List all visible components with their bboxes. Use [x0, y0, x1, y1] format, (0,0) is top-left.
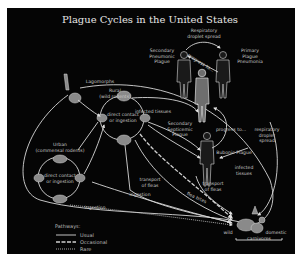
- svg-text:Urban(commensal rodents): Urban(commensal rodents): [36, 142, 85, 153]
- label-domestic: domestic: [265, 230, 286, 235]
- rural-urban-link: [78, 122, 98, 150]
- human-secondary-septicemic-icon: [195, 69, 209, 122]
- label-secondary-pneumonic-1: Secondary: [150, 48, 175, 53]
- human-secondary-pneumonic-icon: [177, 52, 191, 99]
- label-progress-to-mid: progress to...: [216, 127, 246, 132]
- label-urban-1: Urban: [53, 142, 67, 147]
- legend-title: Pathways:: [55, 223, 81, 230]
- label-secondary-septicemic-2: Septicemic: [167, 127, 193, 132]
- svg-text:Respiratorydroplet spread: Respiratorydroplet spread: [187, 28, 221, 39]
- label-respiratory-right-2: droplet: [259, 133, 276, 138]
- legend: Pathways: Usual Occasional Rare: [55, 223, 107, 252]
- urban-rodent-right-icon: [75, 174, 85, 182]
- urban-rodent-bottom-icon: [53, 195, 67, 203]
- label-secondary-pneumonic-3: Plague: [154, 59, 170, 64]
- label-transport-fleas-right-2: of fleas: [205, 187, 222, 192]
- svg-text:SecondarySepticemicPlague: SecondarySepticemicPlague: [167, 121, 193, 137]
- label-transport-fleas-left-1: transport: [139, 177, 160, 182]
- diagram-title: Plague Cycles in the United States: [62, 14, 238, 25]
- urban-to-rural-link: [84, 125, 104, 174]
- svg-text:transportof fleas: transportof fleas: [139, 177, 160, 188]
- label-transport-fleas-right-1: transport: [202, 181, 223, 186]
- label-ingestion-mid: ingestion: [129, 192, 150, 197]
- label-infected-tissues-right-1: infected: [235, 165, 254, 170]
- label-direct-contact-rural-2: or ingestion: [109, 118, 136, 123]
- label-rural-1: Rural: [109, 88, 121, 93]
- lagomorph-link: [78, 100, 100, 116]
- label-primary-pneumonia-3: Pneumonia: [237, 59, 263, 64]
- svg-text:transportof fleas: transportof fleas: [202, 181, 223, 192]
- label-secondary-pneumonic-2: Pneumonic: [149, 54, 175, 59]
- label-carnivores: carnivores: [247, 236, 271, 241]
- human-bubonic-plague-icon: [200, 132, 214, 186]
- legend-usual-label: Usual: [80, 232, 94, 238]
- svg-text:respiratorydropletspread: respiratorydropletspread: [254, 127, 279, 143]
- label-primary-pneumonia-2: Plague: [242, 54, 258, 59]
- svg-text:infectedtissues: infectedtissues: [235, 165, 254, 176]
- urban-rodent-top-icon: [53, 155, 67, 163]
- label-wild: wild: [223, 230, 232, 235]
- label-direct-contact-urban-2: or ingestion: [46, 179, 73, 184]
- svg-text:PrimaryPlaguePneumonia: PrimaryPlaguePneumonia: [237, 48, 263, 64]
- label-ingestion-bottom: ingestion: [84, 205, 105, 210]
- label-direct-contact-urban-1: direct contact: [44, 173, 76, 178]
- rural-rodent-bottom-icon: [117, 135, 131, 145]
- label-transport-fleas-left-2: of fleas: [142, 183, 159, 188]
- svg-text:direct contactor ingestion: direct contactor ingestion: [44, 173, 76, 184]
- human-primary-pneumonia-icon: [216, 52, 230, 99]
- svg-text:SecondaryPneumonicPlague: SecondaryPneumonicPlague: [149, 48, 175, 64]
- label-bubonic-plague: Bubonic Plague: [216, 150, 252, 155]
- label-primary-pneumonia-1: Primary: [241, 48, 259, 53]
- label-respiratory-top-1: Respiratory: [191, 28, 218, 33]
- urban-rodent-left-icon: [34, 174, 44, 182]
- svg-text:direct contactor ingestion: direct contactor ingestion: [107, 112, 139, 123]
- fan-line-3: [140, 134, 232, 218]
- label-infected-tissues-top: infected tissues: [135, 109, 172, 114]
- label-respiratory-right-1: respiratory: [254, 127, 279, 132]
- label-lagomorphs: Lagomorphs: [86, 79, 115, 84]
- label-rural-2: (wild rodents): [99, 94, 131, 99]
- legend-rare-label: Rare: [80, 246, 91, 252]
- carnivore-domestic-icon: [251, 217, 265, 233]
- label-direct-contact-rural-1: direct contact: [107, 112, 139, 117]
- label-infected-tissues-right-2: tissues: [236, 171, 253, 176]
- label-secondary-septicemic-3: Plague: [172, 132, 188, 137]
- lagomorph-rabbit-icon: [64, 74, 81, 103]
- legend-occasional-label: Occasional: [80, 239, 107, 245]
- label-respiratory-right-3: spread: [259, 138, 275, 143]
- label-flea-bites: flea bites: [186, 191, 208, 205]
- resp-spread-arrow: [186, 42, 220, 50]
- plague-cycle-diagram: Plague Cycles in the United States: [0, 0, 302, 261]
- label-secondary-septicemic-1: Secondary: [168, 121, 193, 126]
- rural-rodent-right-icon: [140, 114, 150, 122]
- label-respiratory-top-2: droplet spread: [187, 34, 221, 39]
- svg-text:Rural(wild rodents): Rural(wild rodents): [99, 88, 131, 99]
- label-urban-2: (commensal rodents): [36, 148, 85, 153]
